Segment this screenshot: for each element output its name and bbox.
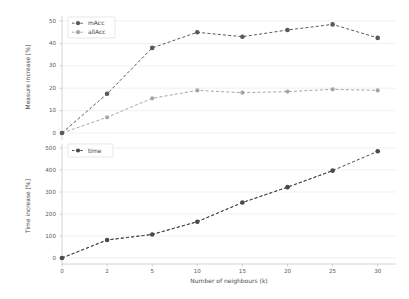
bottom-gridlines [62,148,396,258]
legend-label-mAcc: mAcc [88,19,104,26]
xtick-label-2: 2 [105,268,109,274]
top-ytick-label-50: 50 [49,18,57,24]
xtick-label-5: 5 [150,268,154,274]
legend-label-time: time [88,147,102,154]
top-ytick-label-0: 0 [52,130,56,136]
bottom-ytick-label-0: 0 [52,255,56,261]
xtick-label-30: 30 [374,268,382,274]
bottom-y-axis-title: Time increase [%] [24,179,31,234]
top-ytick-label-40: 40 [49,40,57,46]
top-ytick-label-10: 10 [49,107,57,113]
bottom-ytick-label-100: 100 [45,233,56,239]
bottom-ytick-label-200: 200 [45,211,56,217]
series-time [60,149,380,260]
top-chart-panel: 50 40 30 20 10 0 Measure increase [%] [0,0,409,145]
figure-canvas: 50 40 30 20 10 0 Measure increase [%] [0,0,409,299]
legend-label-allAcc: allAcc [88,28,106,35]
xtick-label-20: 20 [284,268,292,274]
bottom-ytick-label-300: 300 [45,189,56,195]
bottom-legend[interactable]: time [68,144,113,157]
bottom-ytick-label-500: 500 [45,145,56,151]
xtick-label-15: 15 [239,268,247,274]
top-legend[interactable]: mAcc allAcc [68,17,115,38]
xtick-label-10: 10 [194,268,202,274]
top-ytick-label-30: 30 [49,62,57,68]
x-axis-title: Number of neighbours (k) [190,277,267,285]
legend-marker-allAcc [76,30,80,34]
xtick-label-25: 25 [329,268,337,274]
xtick-label-0: 0 [60,268,64,274]
bottom-chart-panel: 500 400 300 200 100 0 Time increase [%] … [0,140,409,299]
legend-marker-mAcc [76,21,80,25]
top-ytick-label-20: 20 [49,85,57,91]
legend-marker-time [76,148,80,152]
top-y-axis-title: Measure increase [%] [24,45,31,110]
bottom-ytick-label-400: 400 [45,167,56,173]
